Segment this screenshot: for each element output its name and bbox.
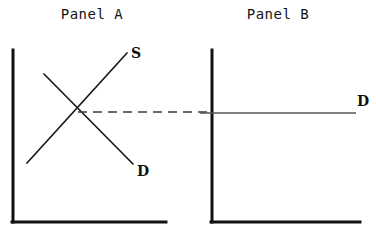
panel-b-demand-label: D	[357, 94, 369, 108]
panel-a-demand-label: D	[137, 164, 149, 178]
panel-a-demand-curve	[44, 74, 133, 164]
supply-demand-plot	[0, 0, 376, 236]
figure-canvas: Panel A Panel B S D D	[0, 0, 376, 236]
panel-a-supply-label: S	[131, 46, 141, 60]
